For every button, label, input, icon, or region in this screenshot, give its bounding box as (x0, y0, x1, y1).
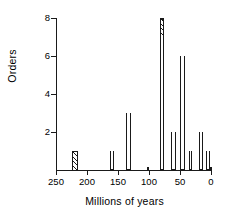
x-tick-150 (118, 170, 119, 175)
x-tick-label-100: 100 (141, 177, 157, 187)
x-axis-line (56, 170, 212, 171)
histogram-bar (110, 151, 114, 170)
bar-segment-open (181, 55, 184, 169)
x-tick-50 (180, 170, 181, 175)
y-tick-label-8: 8 (0, 13, 59, 23)
x-tick-label-150: 150 (110, 177, 126, 187)
histogram-figure: 2468 250200150100500 Millions of years O… (0, 0, 249, 215)
bar-segment-open (161, 36, 163, 169)
x-tick-label-200: 200 (79, 177, 95, 187)
bar-segment-open (200, 131, 202, 169)
histogram-bar (199, 132, 203, 170)
bar-segment-open (172, 131, 175, 169)
bar-segment-open (111, 150, 113, 169)
bar-segment-open (207, 150, 209, 169)
y-axis-label: Orders (6, 26, 18, 106)
x-tick-100 (149, 170, 150, 175)
bar-segment-open (127, 112, 130, 169)
histogram-bar (126, 113, 131, 170)
histogram-bar (72, 151, 78, 170)
histogram-bar (160, 18, 164, 170)
x-tick-label-50: 50 (175, 177, 186, 187)
x-tick-label-250: 250 (48, 177, 64, 187)
bar-segment-hatched (73, 152, 77, 171)
x-tick-label-0: 0 (208, 177, 213, 187)
x-tick-200 (87, 170, 88, 175)
x-tick-0 (211, 170, 212, 175)
histogram-bar (180, 56, 185, 170)
x-tick-250 (56, 170, 57, 175)
histogram-bar (171, 132, 176, 170)
x-axis-label: Millions of years (0, 195, 249, 207)
plot-area (56, 18, 211, 170)
y-tick-label-2: 2 (0, 127, 59, 137)
bar-segment-open (190, 150, 192, 169)
histogram-bar (189, 151, 193, 170)
